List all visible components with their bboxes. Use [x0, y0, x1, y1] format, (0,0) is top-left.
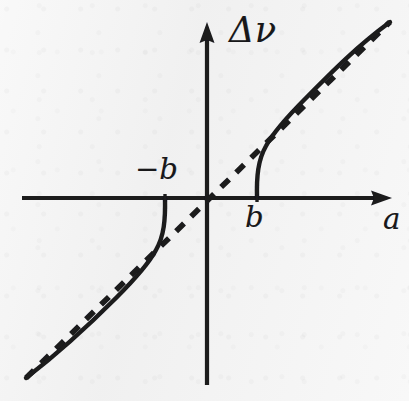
y-axis-label: Δν — [229, 13, 277, 48]
y-axis-arrowhead — [200, 22, 215, 43]
x-tick-label-b: b — [245, 203, 264, 232]
x-tick-label-minus-b: −b — [135, 155, 178, 184]
plot-figure: Δν a −b b — [0, 0, 409, 401]
plot-canvas — [0, 0, 409, 401]
x-axis-label: a — [383, 205, 400, 234]
solid-curve-left-branch — [26, 198, 165, 378]
y-axis — [200, 22, 215, 385]
